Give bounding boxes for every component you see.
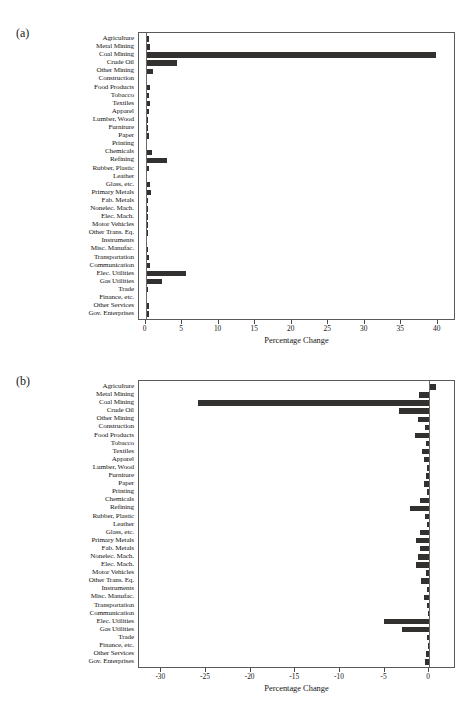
- bar: [384, 619, 430, 624]
- bar-row: [139, 577, 454, 585]
- panel-a: (a) AgricultureMetal MiningCoal MiningCr…: [0, 20, 470, 365]
- axis-tick-label: -30: [155, 672, 165, 681]
- bar-row: [139, 553, 454, 561]
- panel-a-x-axis-title: Percentage Change: [138, 336, 455, 345]
- bar-row: [139, 569, 454, 577]
- bar-row: [139, 262, 454, 270]
- bar-row: [139, 189, 454, 197]
- category-label: Nonelec. Mach.: [18, 552, 134, 560]
- bar-row: [139, 35, 454, 43]
- category-label: Other Mining: [18, 414, 134, 422]
- bar-row: [139, 59, 454, 67]
- axis-tick-label: 35: [397, 324, 404, 333]
- axis-tick-label: 20: [287, 324, 294, 333]
- category-label: Food Products: [18, 431, 134, 439]
- axis-tick-label: 10: [214, 324, 221, 333]
- category-label: Other Trans. Eq.: [18, 576, 134, 584]
- bar-row: [139, 440, 454, 448]
- bar: [198, 400, 429, 405]
- category-label: Lumber, Wood: [18, 463, 134, 471]
- category-label: Fab. Metals: [18, 544, 134, 552]
- bar-row: [139, 51, 454, 59]
- bar-row: [139, 529, 454, 537]
- panel-b-bars: [139, 381, 454, 667]
- axis-tick-label: 5: [179, 324, 183, 333]
- category-label: Chemicals: [18, 147, 134, 155]
- category-label: Misc. Manufac.: [18, 244, 134, 252]
- category-label: Apparel: [18, 107, 134, 115]
- bar-row: [139, 585, 454, 593]
- category-label: Coal Mining: [18, 398, 134, 406]
- bar-row: [139, 561, 454, 569]
- category-label: Lumber, Wood: [18, 115, 134, 123]
- axis-tick-label: -20: [245, 672, 255, 681]
- bar: [420, 498, 429, 503]
- bar: [146, 271, 187, 276]
- panel-a-bars: [139, 33, 454, 319]
- category-label: Finance, etc.: [18, 641, 134, 649]
- category-label: Crude Oil: [18, 406, 134, 414]
- bar-row: [139, 140, 454, 148]
- bar-row: [139, 67, 454, 75]
- category-label: Rubber, Plastic: [18, 164, 134, 172]
- category-label: Leather: [18, 520, 134, 528]
- bar-row: [139, 423, 454, 431]
- bar-row: [139, 205, 454, 213]
- bar: [146, 52, 436, 57]
- category-label: Other Mining: [18, 66, 134, 74]
- axis-tick-label: -15: [289, 672, 299, 681]
- category-label: Apparel: [18, 455, 134, 463]
- category-label: Elec. Mach.: [18, 212, 134, 220]
- category-label: Construction: [18, 74, 134, 82]
- bar-row: [139, 173, 454, 181]
- category-label: Glass, etc.: [18, 180, 134, 188]
- bar: [415, 433, 429, 438]
- bar-row: [139, 488, 454, 496]
- bar-row: [139, 229, 454, 237]
- category-label: Agriculture: [18, 382, 134, 390]
- bar-row: [139, 75, 454, 83]
- axis-tick-label: 0: [143, 324, 147, 333]
- bar-row: [139, 181, 454, 189]
- bar: [146, 158, 167, 163]
- bar-row: [139, 286, 454, 294]
- category-label: Refining: [18, 155, 134, 163]
- bar-row: [139, 593, 454, 601]
- bar: [399, 408, 429, 413]
- category-label: Printing: [18, 487, 134, 495]
- bar-row: [139, 610, 454, 618]
- bar-row: [139, 456, 454, 464]
- category-label: Food Products: [18, 83, 134, 91]
- category-label: Fab. Metals: [18, 196, 134, 204]
- category-label: Chemicals: [18, 495, 134, 503]
- category-label: Printing: [18, 139, 134, 147]
- bar-row: [139, 496, 454, 504]
- bar: [146, 279, 163, 284]
- bar: [420, 530, 429, 535]
- category-label: Other Trans. Eq.: [18, 228, 134, 236]
- category-label: Construction: [18, 422, 134, 430]
- bar-row: [139, 480, 454, 488]
- bar-row: [139, 602, 454, 610]
- category-label: Metal Mining: [18, 42, 134, 50]
- axis-tick-label: -25: [200, 672, 210, 681]
- bar: [146, 69, 153, 74]
- category-label: Misc. Manufac.: [18, 592, 134, 600]
- category-label: Trade: [18, 285, 134, 293]
- bar-row: [139, 84, 454, 92]
- category-label: Gas Utilities: [18, 625, 134, 633]
- bar-row: [139, 650, 454, 658]
- axis-tick-label: 25: [323, 324, 330, 333]
- category-label: Primary Metals: [18, 188, 134, 196]
- bar-row: [139, 197, 454, 205]
- category-label: Agriculture: [18, 34, 134, 42]
- category-label: Tobacco: [18, 91, 134, 99]
- bar-row: [139, 383, 454, 391]
- category-label: Refining: [18, 503, 134, 511]
- bar: [418, 417, 429, 422]
- axis-tick-label: -10: [334, 672, 344, 681]
- category-label: Nonelec. Mach.: [18, 204, 134, 212]
- bar-row: [139, 521, 454, 529]
- axis-tick-label: -5: [380, 672, 386, 681]
- panel-a-plot-frame: [138, 32, 455, 320]
